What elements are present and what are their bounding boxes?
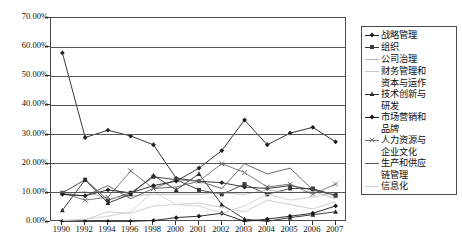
y-axis-tick-label: 20.00% <box>0 158 48 167</box>
legend-marker-icon <box>364 88 380 100</box>
y-axis-tick-label: 50.00% <box>0 70 48 79</box>
data-point-square <box>370 45 374 49</box>
legend-item[interactable]: 战略管理 <box>364 29 454 41</box>
legend-label: 组织 <box>381 41 399 53</box>
legend-label: 公司治理 <box>381 53 417 65</box>
x-axis-tick-label: 2007 <box>320 224 350 234</box>
legend-marker-icon <box>364 134 380 146</box>
legend-marker-icon <box>364 29 380 41</box>
legend-label: 战略管理 <box>381 29 417 41</box>
data-point-diamond <box>370 115 375 120</box>
legend-item[interactable]: 公司治理 <box>364 53 454 65</box>
legend-item[interactable]: 人力资源与 企业文化 <box>364 134 454 157</box>
legend-marker-icon <box>364 41 380 53</box>
y-axis-tick-label: 40.00% <box>0 99 48 108</box>
data-point-diamond <box>370 33 375 38</box>
data-point-triangle <box>370 91 375 96</box>
legend-item[interactable]: 技术创新与 研发 <box>364 88 454 111</box>
gridline <box>51 76 345 77</box>
chart-legend: 战略管理组织公司治理财务管理和 资本与运作技术创新与 研发市场营销和 品牌人力资… <box>361 26 457 195</box>
data-point-cross <box>370 138 375 143</box>
legend-marker-icon <box>364 53 380 65</box>
legend-label: 人力资源与 企业文化 <box>381 134 426 157</box>
gridline <box>51 192 345 193</box>
legend-label: 市场营销和 品牌 <box>381 111 426 134</box>
chart-page: 0.00%10.00%20.00%30.00%40.00%50.00%60.00… <box>0 0 462 249</box>
legend-item[interactable]: 组织 <box>364 41 454 53</box>
legend-label: 财务管理和 资本与运作 <box>381 65 426 88</box>
legend-label: 信息化 <box>381 180 408 192</box>
gridlines <box>51 18 345 220</box>
gridline <box>51 163 345 164</box>
gridline <box>51 105 345 106</box>
legend-marker-icon <box>364 157 380 169</box>
y-axis-tick-label: 30.00% <box>0 129 48 138</box>
y-axis-tick-label: 60.00% <box>0 41 48 50</box>
y-axis-tick-label: 70.00% <box>0 12 48 21</box>
y-axis-tick-mark <box>45 221 50 222</box>
plot-area <box>50 17 346 221</box>
gridline <box>51 134 345 135</box>
legend-marker-icon <box>364 111 380 123</box>
y-axis-tick-label: 10.00% <box>0 187 48 196</box>
gridline <box>51 47 345 48</box>
legend-item[interactable]: 生产和供应 链管理 <box>364 157 454 180</box>
legend-marker-icon <box>364 180 380 192</box>
legend-label: 生产和供应 链管理 <box>381 157 426 180</box>
legend-label: 技术创新与 研发 <box>381 88 426 111</box>
legend-item[interactable]: 信息化 <box>364 180 454 192</box>
legend-item[interactable]: 财务管理和 资本与运作 <box>364 65 454 88</box>
legend-item[interactable]: 市场营销和 品牌 <box>364 111 454 134</box>
legend-marker-icon <box>364 65 380 77</box>
y-axis-tick-label: 0.00% <box>0 216 48 225</box>
